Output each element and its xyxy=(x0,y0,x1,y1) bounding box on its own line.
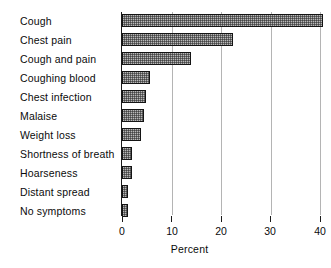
gridline-30 xyxy=(271,12,272,215)
tick-mark-30 xyxy=(270,216,271,222)
bar-chest-pain xyxy=(122,33,233,46)
tick-mark-0 xyxy=(122,216,123,222)
category-label-no-symptoms: No symptoms xyxy=(20,206,120,217)
category-axis: Cough Chest pain Cough and pain Coughing… xyxy=(0,0,118,215)
category-label-chest-infection: Chest infection xyxy=(20,92,120,103)
tick-mark-20 xyxy=(221,216,222,222)
bar-coughing-blood xyxy=(122,71,150,84)
bar-weight-loss xyxy=(122,128,141,141)
category-label-hoarseness: Hoarseness xyxy=(20,168,120,179)
tick-label-20: 20 xyxy=(201,225,241,237)
bar-hoarseness xyxy=(122,166,132,179)
category-label-distant-spread: Distant spread xyxy=(20,187,120,198)
category-label-cough: Cough xyxy=(20,16,120,27)
tick-label-0: 0 xyxy=(102,225,142,237)
tick-mark-10 xyxy=(171,216,172,222)
bar-malaise xyxy=(122,109,144,122)
bar-cough-and-pain xyxy=(122,52,191,65)
tick-mark-40 xyxy=(320,216,321,222)
bar-distant-spread xyxy=(122,185,128,198)
bar-chest-infection xyxy=(122,90,146,103)
category-label-coughing-blood: Coughing blood xyxy=(20,73,120,84)
plot-area xyxy=(122,12,331,215)
tick-label-30: 30 xyxy=(250,225,290,237)
category-label-malaise: Malaise xyxy=(20,111,120,122)
category-label-weight-loss: Weight loss xyxy=(20,130,120,141)
x-axis-title-text: Percent xyxy=(171,243,209,255)
bar-shortness-of-breath xyxy=(122,147,132,160)
tick-label-40: 40 xyxy=(300,225,331,237)
bar-cough xyxy=(122,14,323,27)
x-axis-title: Percent xyxy=(0,243,331,255)
gridline-40 xyxy=(320,12,321,215)
category-label-cough-and-pain: Cough and pain xyxy=(20,54,120,65)
value-axis-line xyxy=(121,12,122,216)
horizontal-bar-chart: Cough Chest pain Cough and pain Coughing… xyxy=(0,0,331,268)
tick-label-10: 10 xyxy=(152,225,192,237)
category-label-chest-pain: Chest pain xyxy=(20,35,120,46)
category-label-shortness-of-breath: Shortness of breath xyxy=(20,149,120,160)
